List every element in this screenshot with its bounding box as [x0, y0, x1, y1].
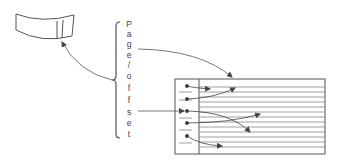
label-letter: s [124, 108, 134, 118]
label-letter: o [124, 72, 134, 82]
disk-segment-icon [16, 14, 74, 39]
label-letter: t [124, 130, 134, 140]
label-letter: f [124, 84, 134, 94]
bracket [112, 22, 120, 138]
table-rows [179, 87, 325, 147]
label-letter: / [124, 61, 134, 71]
label-letter: e [124, 119, 134, 129]
arrow-to-disk [62, 42, 112, 80]
label-letter: g [124, 40, 134, 50]
label-letter: f [124, 96, 134, 106]
arrow-page-to-table [138, 49, 232, 77]
diagram-canvas [0, 0, 338, 164]
